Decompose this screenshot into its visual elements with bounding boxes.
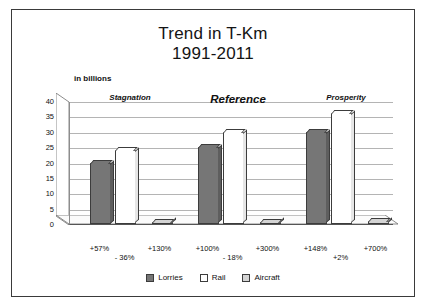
y-axis-tick-label: 30 [46,129,54,137]
bar-side-face [135,148,139,223]
y-axis: 4035302520151050 [32,93,54,225]
percent-label: +700% [364,244,388,253]
axis-side-wall [56,93,69,225]
percent-label: +130% [148,244,172,253]
y-axis-tick-label: 0 [50,221,54,229]
bar-lorries-prosperity [306,132,327,224]
bar-side-face [218,145,222,223]
panel-label-prosperity: Prosperity [326,93,366,102]
bar-side-face [326,129,330,223]
bar-aircraft-stagnation [152,222,173,224]
bar-side-face [351,111,355,223]
y-axis-tick-label: 15 [46,175,54,183]
bar-rail-prosperity [331,113,352,224]
bar-rail-stagnation [115,150,136,224]
legend: LorriesRailAircraft [12,273,414,282]
y-axis-tick-label: 35 [46,114,54,122]
y-axis-tick-label: 20 [46,160,54,168]
plot-area: 4035302520151050 StagnationReferencePros… [32,93,398,243]
legend-item-lorries: Lorries [146,273,182,282]
legend-item-aircraft: Aircraft [242,273,279,282]
y-axis-tick-label: 25 [46,144,54,152]
percent-label: - 18% [223,253,243,262]
percent-label: +148% [304,244,328,253]
plot-wall: StagnationReferenceProsperity [69,102,393,225]
percent-label: - 36% [115,253,135,262]
legend-swatch-aircraft [242,274,250,282]
chart-title-line-2: 1991-2011 [12,44,414,64]
y-axis-tick-label: 40 [46,98,54,106]
chart-title-line-1: Trend in T-Km [12,24,414,44]
panel-label-stagnation: Stagnation [109,93,150,102]
legend-label: Aircraft [254,273,279,282]
chart-title: Trend in T-Km 1991-2011 [12,24,414,64]
panel-label-reference: Reference [210,93,266,105]
bar-lorries-reference [198,147,219,224]
percent-label: +2% [333,253,348,262]
legend-swatch-lorries [146,274,154,282]
legend-swatch-rail [200,274,208,282]
bar-lorries-stagnation [90,163,111,225]
percent-label: +100% [196,244,220,253]
legend-item-rail: Rail [200,273,226,282]
legend-label: Rail [212,273,226,282]
bar-aircraft-reference [260,222,281,224]
bar-aircraft-prosperity [368,221,389,224]
percent-label: +300% [256,244,280,253]
y-axis-tick-label: 5 [50,206,54,214]
units-label: in billions [74,74,111,83]
slide-frame: Trend in T-Km 1991-2011 in billions 4035… [11,9,415,297]
y-axis-tick-label: 10 [46,191,54,199]
bar-side-face [243,129,247,223]
legend-label: Lorries [158,273,182,282]
bar-rail-reference [223,132,244,224]
bar-side-face [110,160,114,223]
percent-label-layer: +57%- 36%+130%+100%- 18%+300%+148%+2%+70… [32,244,398,268]
percent-label: +57% [90,244,109,253]
